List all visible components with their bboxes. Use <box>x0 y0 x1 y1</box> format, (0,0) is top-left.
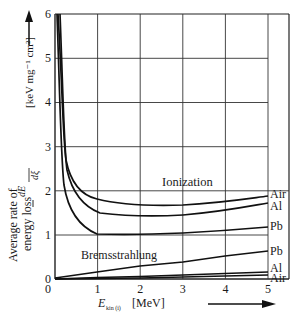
x-tick-3: 3 <box>180 282 186 296</box>
y-axis-line1: Average rate of <box>6 188 20 262</box>
x-axis-unit: [MeV] <box>132 296 165 310</box>
y-tick-labels: 0 1 2 3 4 5 6 <box>45 7 51 286</box>
x-tick-labels: 0 1 2 3 4 5 <box>45 282 271 296</box>
series-labels: Air Al Pb Pb Al Air <box>270 187 286 285</box>
y-axis-line2: energy loss <box>20 197 34 251</box>
bremsstrahlung-label: Bremsstrahlung <box>81 248 157 262</box>
y-axis-deriv-num: dE <box>16 186 27 197</box>
energy-loss-chart: 0 1 2 3 4 5 6 0 1 2 3 4 5 Ionization Bre… <box>0 0 296 317</box>
x-tick-4: 4 <box>222 282 228 296</box>
y-axis-unit: [keV mg⁻¹ cm²] <box>23 37 35 108</box>
y-axis-deriv-den: dξ <box>29 170 41 180</box>
x-axis-label: E kin (i) [MeV] <box>97 296 165 312</box>
x-tick-2: 2 <box>137 282 143 296</box>
y-tick-4: 4 <box>45 95 51 109</box>
y-tick-1: 1 <box>45 228 51 242</box>
y-axis-label: Average rate of energy loss [keV mg⁻¹ cm… <box>6 37 41 262</box>
grid <box>55 14 268 279</box>
label-al-ionization: Al <box>270 199 283 213</box>
x-tick-0: 0 <box>45 282 51 296</box>
y-tick-3: 3 <box>45 140 51 154</box>
label-pb-brems: Pb <box>270 244 283 258</box>
x-axis-subscript: kin (i) <box>106 305 121 312</box>
x-tick-1: 1 <box>95 282 101 296</box>
y-tick-5: 5 <box>45 51 51 65</box>
y-tick-2: 2 <box>45 184 51 198</box>
y-tick-6: 6 <box>45 7 51 21</box>
x-axis-symbol: E <box>97 296 106 310</box>
x-axis-arrow-icon <box>208 300 276 308</box>
ionization-label: Ionization <box>162 175 213 189</box>
curve-pb-ionization <box>57 14 268 234</box>
ionization-curves <box>57 14 268 234</box>
label-pb-ionization: Pb <box>270 219 283 233</box>
label-air-brems: Air <box>270 271 286 285</box>
